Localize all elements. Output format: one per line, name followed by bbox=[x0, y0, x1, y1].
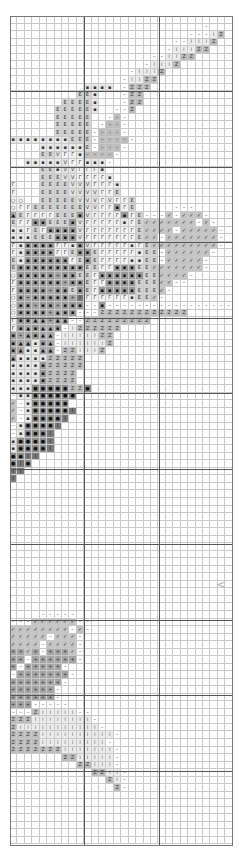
chart-frame bbox=[10, 16, 233, 846]
center-arrow-icon: < bbox=[216, 578, 225, 591]
cross-stitch-chart: ––––⁞Z––⁞⁞⁞Z–⁞⁞⁞ZZ––⁞⁞ZZ–⁞⁞⁞Z–⁞⁞⁞Z–⁞⁞ZZ▪… bbox=[10, 16, 233, 846]
